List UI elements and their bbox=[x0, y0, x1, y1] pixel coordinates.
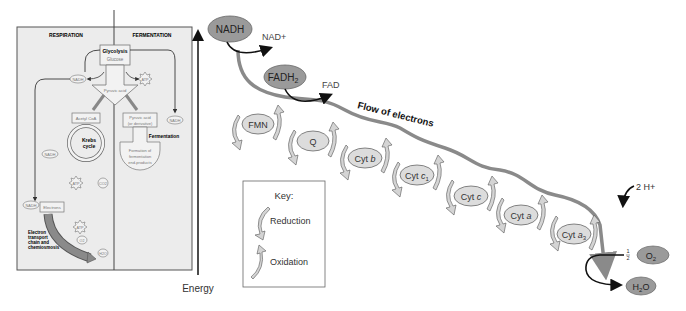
carrier-q: Q bbox=[288, 122, 339, 165]
nadh-label: NADH bbox=[216, 24, 244, 35]
oxygen-acceptor: 1 2 O2 H2O bbox=[586, 246, 669, 295]
svg-text:Q: Q bbox=[309, 137, 316, 147]
svg-text:NADH: NADH bbox=[73, 78, 84, 82]
glucose-label: Glucose bbox=[107, 57, 124, 62]
svg-text:2: 2 bbox=[626, 255, 629, 261]
svg-text:NADH: NADH bbox=[45, 153, 56, 157]
svg-text:(or derivative): (or derivative) bbox=[128, 121, 153, 126]
svg-text:ATP: ATP bbox=[141, 78, 149, 82]
svg-text:1: 1 bbox=[626, 248, 629, 254]
reduction-arrow-icon bbox=[288, 130, 298, 165]
fad-label: FAD bbox=[322, 80, 340, 90]
oxidation-arrow-icon bbox=[328, 122, 339, 157]
svg-text:Cyt c: Cyt c bbox=[461, 192, 482, 202]
svg-text:ATP: ATP bbox=[76, 226, 84, 230]
carrier-cyt-a3: Cyt a3 bbox=[550, 215, 600, 251]
oxidation-arrow-icon bbox=[537, 195, 548, 230]
fermentation-header: FERMENTATION bbox=[133, 32, 172, 38]
pyruvic-acid-label: Pyruvic acid bbox=[104, 88, 127, 93]
carrier-cyt-a: Cyt a bbox=[496, 195, 548, 233]
legend-key: Key: Reduction Oxidation bbox=[243, 181, 325, 287]
acetyl-coa-label: Acetyl CoA bbox=[76, 116, 97, 121]
svg-text:FADH2: FADH2 bbox=[268, 72, 299, 84]
carrier-cyt-c1: Cyt c1 bbox=[392, 155, 444, 197]
svg-text:cycle: cycle bbox=[83, 143, 96, 149]
carrier-cyt-c: Cyt c bbox=[446, 176, 498, 215]
protons-label: 2 H+ bbox=[636, 182, 655, 192]
svg-text:NADH: NADH bbox=[170, 119, 181, 123]
oxidation-arrow-icon bbox=[487, 176, 498, 211]
carrier-fmn: FMN bbox=[232, 105, 284, 150]
svg-text:NADH: NADH bbox=[26, 204, 37, 208]
reduction-arrow-icon bbox=[392, 162, 402, 197]
svg-text:H2O: H2O bbox=[99, 252, 107, 256]
svg-text:ATP: ATP bbox=[72, 182, 80, 186]
oxidation-label: Oxidation bbox=[270, 257, 308, 267]
fermentation-label: Fermentation bbox=[149, 134, 179, 139]
pyruvic-derivative-label: Pyruvic acid bbox=[129, 115, 151, 120]
reduction-arrow-icon bbox=[232, 115, 242, 150]
reduction-arrow-icon bbox=[340, 145, 350, 180]
nad-plus-label: NAD+ bbox=[262, 32, 286, 42]
svg-text:Electrons: Electrons bbox=[43, 205, 60, 210]
formation-label: Formation of bbox=[129, 148, 152, 153]
glycolysis-label: Glycolysis bbox=[102, 48, 127, 54]
svg-text:FMN: FMN bbox=[248, 120, 268, 130]
respiration-header: RESPIRATION bbox=[49, 32, 83, 38]
oxidation-arrow-icon bbox=[433, 155, 444, 190]
energy-label: Energy bbox=[182, 283, 214, 294]
svg-text:chemiosmosis: chemiosmosis bbox=[28, 245, 60, 250]
key-title: Key: bbox=[274, 190, 293, 201]
nadh-donor: NADH NAD+ bbox=[208, 16, 286, 53]
oxidation-arrow-icon bbox=[273, 105, 284, 140]
svg-text:O2: O2 bbox=[80, 239, 85, 243]
overview-panel: RESPIRATION FERMENTATION Glycolysis Gluc… bbox=[17, 10, 192, 270]
svg-text:fermentation: fermentation bbox=[129, 154, 151, 159]
svg-text:Cyt a: Cyt a bbox=[510, 211, 531, 221]
svg-text:end-products: end-products bbox=[128, 160, 151, 165]
carrier-cyt-b: Cyt b bbox=[340, 138, 392, 180]
reduction-label: Reduction bbox=[270, 216, 311, 226]
svg-text:CO2: CO2 bbox=[99, 182, 107, 186]
proton-input: 2 H+ bbox=[623, 182, 655, 205]
svg-text:Cyt b: Cyt b bbox=[354, 154, 375, 164]
oxidation-arrow-icon bbox=[381, 138, 392, 173]
